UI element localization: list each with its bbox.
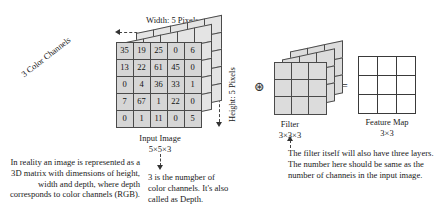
input-matrix-cell: 0 bbox=[184, 93, 202, 111]
filter-cell bbox=[274, 79, 292, 97]
input-matrix-cell: 35 bbox=[116, 42, 134, 60]
filter-cell bbox=[291, 79, 309, 97]
color-channels-label: 3 Color Channels bbox=[20, 35, 73, 79]
annotation-right: The filter itself will also have three l… bbox=[288, 148, 434, 180]
input-image-stack: 3519250613226145004363317671220011105 bbox=[100, 24, 230, 134]
feature-map-cell bbox=[358, 75, 378, 95]
input-matrix-cell: 22 bbox=[133, 59, 151, 77]
filter-layer-front bbox=[274, 62, 326, 114]
feature-map-cell bbox=[377, 56, 397, 76]
right-annotation-arrowhead bbox=[287, 136, 293, 141]
input-matrix-cell: 1 bbox=[150, 93, 168, 111]
filter-cell bbox=[308, 62, 326, 80]
feature-map-grid bbox=[358, 56, 415, 113]
middle-annotation-arrowhead bbox=[157, 165, 163, 170]
right-annotation-leader bbox=[290, 140, 291, 148]
input-matrix-cell: 25 bbox=[150, 42, 168, 60]
feature-map-cell bbox=[377, 75, 397, 95]
filter-cell bbox=[308, 79, 326, 97]
input-matrix-cell: 5 bbox=[184, 110, 202, 128]
input-matrix-cell: 22 bbox=[167, 93, 185, 111]
annotation-left: In reality an image is represented as a … bbox=[8, 157, 140, 200]
input-matrix-cell: 0 bbox=[167, 42, 185, 60]
filter-caption: Filter bbox=[252, 120, 328, 130]
height-label: Height: 5 Pixels bbox=[228, 67, 238, 122]
filter-cell bbox=[274, 96, 292, 114]
input-matrix-cell: 67 bbox=[133, 93, 151, 111]
convolution-operator-icon: ⊛ bbox=[254, 80, 265, 93]
input-image-caption: Input Image bbox=[118, 134, 202, 144]
input-matrix-cell: 4 bbox=[133, 76, 151, 94]
width-arrow-left bbox=[115, 29, 120, 35]
feature-map-cell bbox=[396, 56, 416, 76]
filter-cell bbox=[308, 96, 326, 114]
figure-canvas: 3519250613226145004363317671220011105 Wi… bbox=[0, 0, 436, 220]
feature-map-cell bbox=[396, 94, 416, 114]
input-matrix-cell: 61 bbox=[150, 59, 168, 77]
feature-map-cell bbox=[358, 56, 378, 76]
input-matrix-cell: 19 bbox=[133, 42, 151, 60]
input-matrix-cell: 45 bbox=[167, 59, 185, 77]
input-matrix-cell: 36 bbox=[150, 76, 168, 94]
input-matrix-cell: 6 bbox=[184, 42, 202, 60]
input-matrix-cell: 1 bbox=[184, 76, 202, 94]
input-matrix-cell: 0 bbox=[184, 59, 202, 77]
feature-map-cell bbox=[377, 94, 397, 114]
input-matrix-cell: 13 bbox=[116, 59, 134, 77]
input-image-matrix: 3519250613226145004363317671220011105 bbox=[116, 42, 201, 127]
filter-cell bbox=[291, 62, 309, 80]
feature-map-cell bbox=[396, 75, 416, 95]
feature-map-caption: Feature Map bbox=[348, 118, 426, 128]
annotation-middle: 3 is the numgber of color channels. It's… bbox=[148, 172, 230, 204]
filter-cell bbox=[274, 62, 292, 80]
input-matrix-cell: 7 bbox=[116, 93, 134, 111]
feature-map-dims: 3×3 bbox=[348, 129, 426, 139]
input-matrix-cell: 1 bbox=[133, 110, 151, 128]
filter-cube bbox=[272, 46, 350, 116]
height-arrow-down bbox=[216, 122, 222, 127]
input-matrix-cell: 11 bbox=[150, 110, 168, 128]
input-matrix-cell: 0 bbox=[116, 110, 134, 128]
feature-map-cell bbox=[358, 94, 378, 114]
input-matrix-cell: 0 bbox=[167, 110, 185, 128]
input-matrix-cell: 33 bbox=[167, 76, 185, 94]
input-matrix-cell: 0 bbox=[116, 76, 134, 94]
filter-cell bbox=[291, 96, 309, 114]
